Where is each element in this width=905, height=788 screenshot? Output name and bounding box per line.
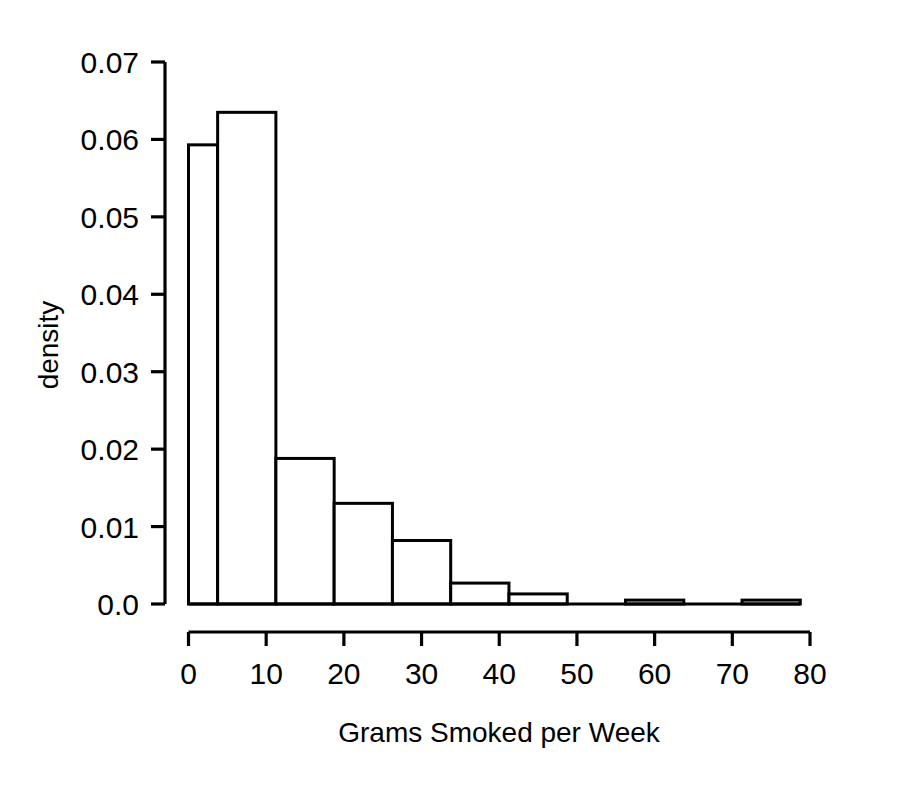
y-tick-label: 0.07	[81, 46, 139, 79]
x-axis-title: Grams Smoked per Week	[338, 717, 661, 748]
histogram-figure: 0.00.010.020.030.040.050.060.07 01020304…	[0, 0, 905, 788]
y-tick-labels: 0.00.010.020.030.040.050.060.07	[81, 46, 139, 621]
y-tick-label: 0.03	[81, 356, 139, 389]
histogram-bar	[218, 112, 276, 604]
x-tick-label: 40	[483, 657, 516, 690]
bars-group	[189, 112, 801, 604]
x-tick-label: 60	[638, 657, 671, 690]
x-tick-label: 80	[793, 657, 826, 690]
y-tick-label: 0.05	[81, 201, 139, 234]
x-tick-label: 10	[250, 657, 283, 690]
x-axis	[189, 632, 811, 646]
histogram-bar	[392, 541, 450, 604]
histogram-bar	[451, 583, 509, 604]
x-tick-label: 30	[405, 657, 438, 690]
y-axis	[151, 62, 165, 604]
plot-area: 0.00.010.020.030.040.050.060.07 01020304…	[0, 0, 905, 788]
y-tick-label: 0.02	[81, 433, 139, 466]
y-axis-title: density	[33, 301, 64, 390]
y-tick-label: 0.04	[81, 278, 139, 311]
y-tick-label: 0.06	[81, 123, 139, 156]
y-tick-label: 0.01	[81, 511, 139, 544]
histogram-bar	[509, 594, 567, 604]
x-tick-label: 20	[327, 657, 360, 690]
histogram-bar	[189, 145, 218, 604]
x-tick-label: 50	[560, 657, 593, 690]
x-tick-label: 0	[180, 657, 197, 690]
x-tick-labels: 01020304050607080	[180, 657, 827, 690]
histogram-bar	[276, 458, 334, 604]
histogram-bar	[334, 503, 392, 604]
x-tick-label: 70	[716, 657, 749, 690]
y-tick-label: 0.0	[97, 588, 139, 621]
